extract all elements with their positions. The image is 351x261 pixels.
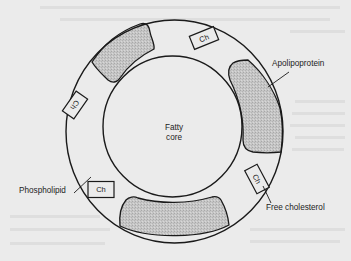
svg-text:Ch: Ch xyxy=(96,185,106,194)
apolipoprotein-patch-bottom xyxy=(120,197,229,236)
apolipoprotein-patch-top-left xyxy=(92,23,154,82)
cholesterol-box-left: Ch xyxy=(62,91,87,119)
apolipoprotein-patch-right xyxy=(229,60,283,153)
fatty-core-label-line2: core xyxy=(148,133,200,143)
lipoprotein-diagram: Ch Ch Ch Ch Fatty core Apolipoprotein Ph… xyxy=(0,0,351,261)
fatty-core-label-line1: Fatty xyxy=(148,123,200,133)
phospholipid-label: Phospholipid xyxy=(19,187,66,195)
free-cholesterol-label: Free cholesterol xyxy=(266,204,325,212)
fatty-core-label: Fatty core xyxy=(148,123,200,143)
cholesterol-box-free: Ch xyxy=(245,164,270,194)
apolipoprotein-label: Apolipoprotein xyxy=(272,60,324,68)
cholesterol-box-phospholipid: Ch xyxy=(88,182,114,198)
cholesterol-box-top: Ch xyxy=(189,27,218,50)
